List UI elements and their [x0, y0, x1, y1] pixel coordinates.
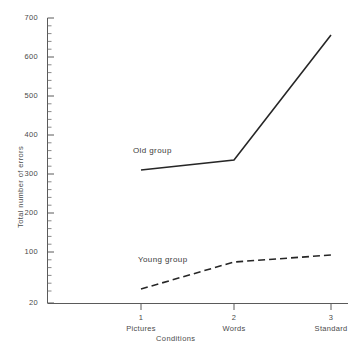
y-tick-label-400: 400	[8, 130, 38, 139]
x-tick-label-2: 2	[214, 313, 254, 322]
x-tick-label-1: 1	[121, 313, 161, 322]
x-ticks	[141, 303, 331, 310]
x-category-label-words: Words	[214, 324, 254, 333]
x-axis-title: Conditions	[156, 334, 195, 343]
x-tick-label-3: 3	[311, 313, 351, 322]
y-tick-label-500: 500	[8, 91, 38, 100]
series-annotation-old-group: Old group	[133, 146, 172, 155]
line-chart: 700 600 500 400 300 200 100 20 Total num…	[0, 0, 356, 345]
y-tick-label-600: 600	[8, 52, 38, 61]
y-minor-ticks	[48, 26, 52, 291]
y-major-ticks	[48, 18, 55, 303]
y-tick-label-20: 20	[8, 298, 38, 307]
y-tick-label-100: 100	[8, 247, 38, 256]
x-category-label-pictures: Pictures	[121, 324, 161, 333]
chart-canvas	[0, 0, 356, 345]
y-axis-title: Total number of errors	[16, 146, 25, 228]
y-tick-label-700: 700	[8, 13, 38, 22]
series-annotation-young-group: Young group	[138, 255, 187, 264]
x-category-label-standard: Standard	[311, 324, 351, 333]
